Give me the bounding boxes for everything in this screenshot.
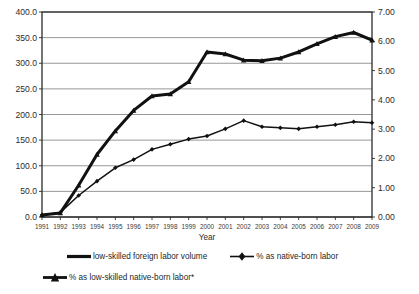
y-axis-right-tick-label: 6.00 <box>378 36 395 46</box>
plot-area: 0.050.0100.0150.0200.0250.0300.0350.0400… <box>0 0 419 246</box>
x-axis-title: Year <box>199 233 216 242</box>
x-axis-tick-label: 2003 <box>255 223 270 230</box>
x-axis-tick-label: 2000 <box>200 223 215 230</box>
series-marker-diamond <box>223 127 228 132</box>
legend-label-native-born-labor: % as native-born labor <box>256 252 338 261</box>
y-axis-right-tick-label: 2.00 <box>378 153 395 163</box>
legend-label-foreign-labor-volume: low-skilled foreign labor volume <box>93 252 207 261</box>
x-axis-tick-label: 2007 <box>328 223 343 230</box>
legend-row-2: % as low-skilled native-born labor* <box>0 267 419 288</box>
x-axis-tick-label: 2005 <box>292 223 307 230</box>
series-marker-diamond <box>241 118 246 123</box>
chart-container: 0.050.0100.0150.0200.0250.0300.0350.0400… <box>0 0 419 294</box>
x-axis-ticks: 1991199219931994199519961997199819992000… <box>35 217 380 230</box>
chart-legend: low-skilled foreign labor volume % as na… <box>0 246 419 294</box>
legend-row-1: low-skilled foreign labor volume % as na… <box>0 246 419 267</box>
y-axis-left-ticks: 0.050.0100.0150.0200.0250.0300.0350.0400… <box>15 7 42 222</box>
x-axis-tick-label: 1992 <box>53 223 68 230</box>
legend-item-low-skilled-native-born-labor[interactable]: % as low-skilled native-born labor* <box>42 272 194 283</box>
x-axis-tick-label: 1998 <box>163 223 178 230</box>
y-axis-right-tick-label: 1.00 <box>378 183 395 193</box>
series-marker-diamond <box>296 127 301 132</box>
series-marker-diamond <box>186 137 191 142</box>
series-marker-diamond <box>168 142 173 147</box>
legend-label-low-skilled-native-born-labor: % as low-skilled native-born labor* <box>69 273 194 282</box>
x-axis-tick-label: 1994 <box>90 223 105 230</box>
y-axis-left-tick-label: 200.0 <box>15 110 37 120</box>
x-axis-tick-label: 2004 <box>273 223 288 230</box>
legend-key-triangle-icon <box>42 272 68 283</box>
x-axis-tick-label: 2006 <box>310 223 325 230</box>
series-marker-diamond <box>351 119 356 124</box>
x-axis-tick-label: 1991 <box>35 223 50 230</box>
x-axis-tick-label: 2009 <box>365 223 380 230</box>
y-axis-right-tick-label: 5.00 <box>378 66 395 76</box>
legend-item-foreign-labor-volume[interactable]: low-skilled foreign labor volume <box>66 251 207 262</box>
y-axis-left-tick-label: 300.0 <box>15 58 37 68</box>
series-marker-diamond <box>278 126 283 131</box>
y-axis-left-tick-label: 350.0 <box>15 33 37 43</box>
legend-key-line-icon <box>66 251 92 262</box>
x-axis-tick-label: 2001 <box>218 223 233 230</box>
y-axis-right-tick-label: 0.00 <box>378 212 395 222</box>
y-axis-right-tick-label: 7.00 <box>378 7 395 17</box>
y-axis-left-tick-label: 250.0 <box>15 84 37 94</box>
data-series-layer <box>39 30 374 217</box>
series-marker-diamond <box>333 122 338 127</box>
x-axis-tick-label: 2002 <box>237 223 252 230</box>
x-axis-tick-label: 1997 <box>145 223 160 230</box>
x-axis-tick-label: 1999 <box>182 223 197 230</box>
y-axis-left-tick-label: 150.0 <box>15 135 37 145</box>
y-axis-left-tick-label: 0.0 <box>25 212 37 222</box>
x-axis-tick-label: 1993 <box>72 223 87 230</box>
y-axis-left-tick-label: 50.0 <box>20 186 37 196</box>
legend-item-native-born-labor[interactable]: % as native-born labor <box>229 251 338 262</box>
series-marker-diamond <box>370 120 375 125</box>
x-axis-tick-label: 2008 <box>347 223 362 230</box>
y-axis-left-tick-label: 100.0 <box>15 161 37 171</box>
series-marker-diamond <box>315 125 320 130</box>
series-line <box>42 33 372 215</box>
x-axis-tick-label: 1996 <box>127 223 142 230</box>
legend-key-diamond-icon <box>229 251 255 262</box>
y-axis-right-ticks: 0.001.002.003.004.005.006.007.00 <box>372 7 395 222</box>
series-marker-diamond <box>260 125 265 130</box>
y-axis-right-tick-label: 3.00 <box>378 124 395 134</box>
series-marker-diamond <box>205 134 210 139</box>
y-axis-right-tick-label: 4.00 <box>378 95 395 105</box>
y-axis-left-tick-label: 400.0 <box>15 7 37 17</box>
x-axis-tick-label: 1995 <box>108 223 123 230</box>
line-chart-svg: 0.050.0100.0150.0200.0250.0300.0350.0400… <box>0 0 419 246</box>
